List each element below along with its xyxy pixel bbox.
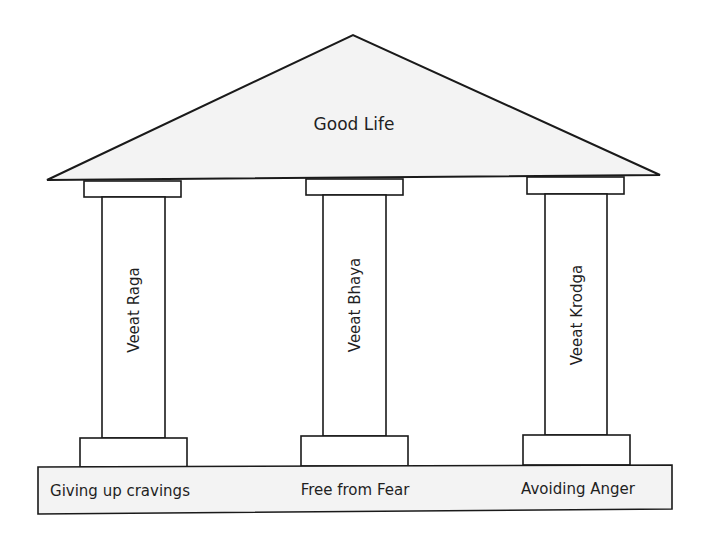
foundation: Giving up cravings Free from Fear Avoidi…	[38, 465, 672, 514]
pillar-1-capital	[84, 181, 181, 197]
foundation-label-3: Avoiding Anger	[521, 480, 636, 498]
roof: Good Life	[47, 35, 660, 180]
foundation-label-1: Giving up cravings	[50, 482, 190, 500]
pillar-2-capital	[306, 179, 403, 195]
pillar-3: Veeat Krodga	[523, 177, 630, 465]
roof-triangle	[47, 35, 660, 180]
roof-label: Good Life	[314, 114, 395, 134]
pillar-3-capital	[527, 177, 624, 194]
pillar-2: Veeat Bhaya	[301, 179, 408, 466]
pillar-1-label: Veeat Raga	[125, 267, 143, 352]
pillar-1-base	[80, 438, 187, 467]
pillar-2-base	[301, 436, 408, 466]
pillar-3-base	[523, 435, 630, 465]
foundation-label-2: Free from Fear	[301, 481, 411, 499]
pillar-1: Veeat Raga	[80, 181, 187, 467]
pillar-2-label: Veeat Bhaya	[346, 258, 364, 352]
pillar-3-label: Veeat Krodga	[568, 265, 586, 365]
temple-diagram: Good Life Veeat Raga Veeat Bhaya Veeat K…	[0, 0, 710, 541]
